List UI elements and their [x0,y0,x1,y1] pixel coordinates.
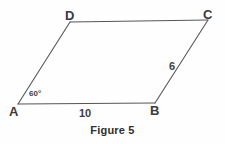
degree-symbol-icon: ° [38,89,41,98]
figure-caption: Figure 5 [0,124,225,136]
edge-da [18,22,70,104]
vertex-label-c: C [203,8,212,21]
edge-ab [18,103,155,104]
edge-cd [70,20,208,22]
vertex-label-a: A [9,105,18,118]
vertex-label-b: B [150,104,159,117]
edge-bc [155,20,208,103]
angle-value-a: 60 [29,89,38,98]
figure-container: A B C D 10 6 60° Figure 5 [0,0,225,144]
side-length-ab: 10 [79,108,91,119]
parallelogram-diagram [0,0,225,144]
vertex-label-d: D [65,9,74,22]
side-length-bc: 6 [169,61,175,72]
angle-measure-a: 60° [29,90,41,98]
